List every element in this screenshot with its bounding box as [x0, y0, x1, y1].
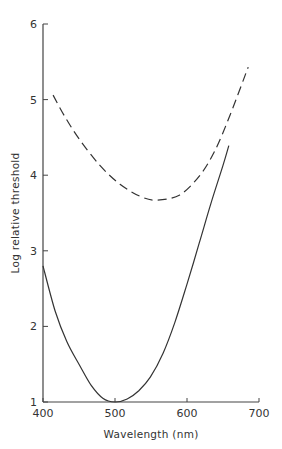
y-tick-label: 2 — [30, 320, 37, 333]
solid-curve — [43, 146, 229, 402]
y-tick-label: 1 — [30, 396, 37, 409]
y-tick-label: 4 — [30, 169, 37, 182]
y-tick-label: 6 — [30, 18, 37, 31]
series-group — [43, 67, 248, 402]
axes: 400500600700123456 — [30, 18, 270, 420]
y-tick-label: 5 — [30, 94, 37, 107]
x-axis-label: Wavelength (nm) — [103, 428, 198, 440]
chart: 400500600700123456 Wavelength (nm) Log r… — [0, 0, 282, 449]
y-tick-label: 3 — [30, 245, 37, 258]
y-axis-label: Log relative threshold — [9, 152, 21, 273]
x-tick-label: 600 — [177, 407, 198, 420]
x-tick-label: 500 — [105, 407, 126, 420]
dashed-curve — [53, 67, 248, 200]
x-tick-label: 700 — [249, 407, 270, 420]
